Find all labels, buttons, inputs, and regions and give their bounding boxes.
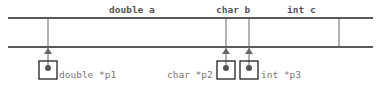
pointer-label-p3: int *p3 — [261, 69, 301, 80]
pointer-p2: char *p2 — [167, 18, 235, 80]
arrow-up-icon — [44, 48, 52, 54]
pointer-p2-dot — [223, 65, 229, 71]
pointer-p1-dot — [45, 65, 51, 71]
arrow-up-icon — [245, 48, 253, 54]
pointer-p3-dot — [246, 65, 252, 71]
variable-label-a: double a — [109, 4, 155, 15]
arrow-up-icon — [222, 48, 230, 54]
pointer-diagram: double a char b int c double *p1 char *p… — [0, 0, 381, 88]
variable-label-b: char b — [216, 4, 251, 15]
pointer-p1: double *p1 — [39, 18, 116, 80]
pointer-p3: int *p3 — [240, 18, 301, 80]
pointer-label-p1: double *p1 — [59, 69, 116, 80]
pointer-label-p2: char *p2 — [167, 69, 213, 80]
variable-label-c: int c — [287, 4, 316, 15]
